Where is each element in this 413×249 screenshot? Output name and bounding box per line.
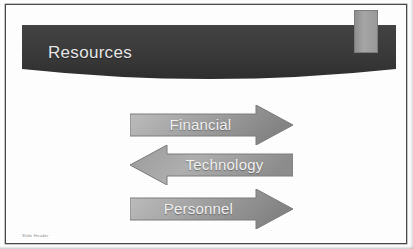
slide-footer-text: Slide Header	[22, 233, 49, 238]
arrow-financial[interactable]: Financial	[130, 105, 293, 145]
page-title: Resources	[48, 43, 132, 63]
accent-bar	[354, 10, 378, 53]
arrow-technology[interactable]: Technology	[130, 145, 293, 185]
slide-canvas: Resources Financial	[0, 0, 413, 249]
arrow-personnel[interactable]: Personnel	[130, 189, 293, 229]
slide-frame: Resources Financial	[5, 4, 407, 244]
